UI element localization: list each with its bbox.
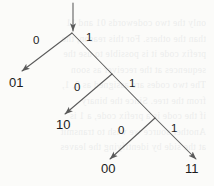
diagram-canvas: only the two codewords 01 and 11 than th…	[0, 0, 214, 186]
edge-root-0	[22, 33, 72, 71]
leaf-label-11: 11	[185, 161, 199, 176]
binary-tree-graphic	[0, 0, 214, 186]
edge-n3-0	[110, 118, 155, 159]
edge-label-root-1: 1	[86, 31, 92, 43]
leaf-label-00: 00	[101, 161, 115, 176]
edge-label-n2-0: 0	[74, 81, 80, 93]
leaf-label-01: 01	[9, 75, 23, 90]
edge-n2-0	[65, 74, 112, 114]
edge-label-root-0: 0	[33, 34, 39, 46]
edge-label-n3-0: 0	[118, 124, 124, 136]
leaf-label-10: 10	[56, 117, 70, 132]
edge-label-n3-1: 1	[171, 122, 177, 134]
edge-label-n2-1: 1	[129, 77, 135, 89]
